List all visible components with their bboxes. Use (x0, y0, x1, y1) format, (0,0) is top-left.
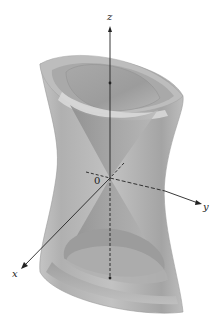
hyperboloid-diagram: z y x 0 (0, 0, 217, 326)
y-axis (165, 191, 198, 203)
x-axis-label: x (12, 268, 18, 279)
z-axis-lower-dot (109, 277, 112, 280)
z-arrow-head (108, 26, 112, 32)
origin-label: 0 (94, 175, 100, 186)
z-axis-label: z (106, 11, 113, 22)
y-arrow-head (195, 200, 202, 205)
y-axis-label: y (202, 201, 209, 212)
z-axis-upper-dot (109, 82, 112, 85)
